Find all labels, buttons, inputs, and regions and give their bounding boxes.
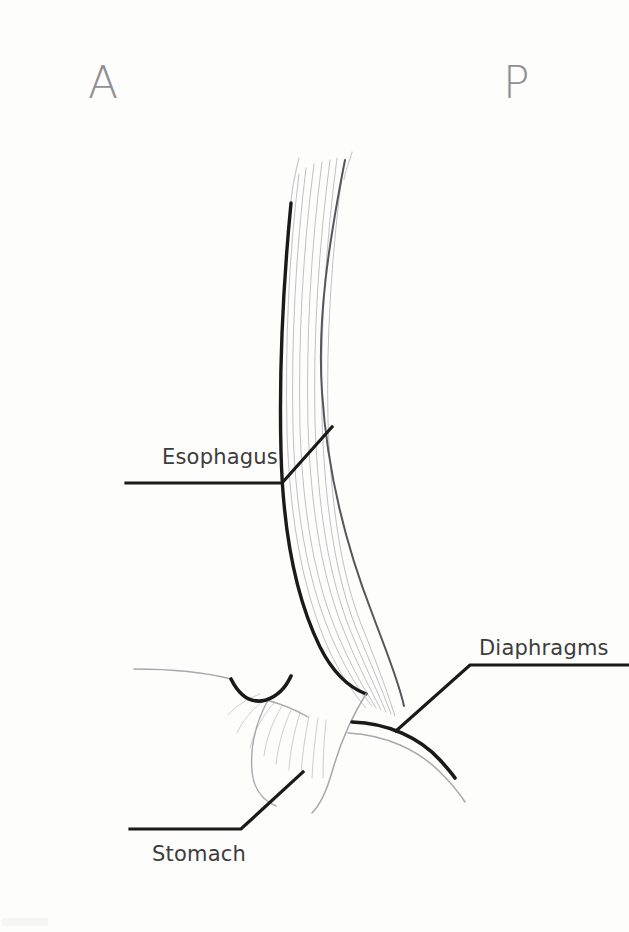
orientation-mark-anterior: A: [88, 57, 119, 108]
stomach-label-text: Stomach: [152, 842, 246, 866]
esophagus-label-text: Esophagus: [162, 445, 278, 469]
anatomy-figure: A P Esophagus Diaphragms Stomach: [0, 0, 629, 932]
diaphragms-label-text: Diaphragms: [479, 636, 609, 660]
paper-background: [0, 0, 629, 932]
orientation-mark-posterior: P: [503, 57, 530, 108]
illustration-canvas: A P Esophagus Diaphragms Stomach: [0, 0, 629, 932]
scan-smudge-artifact: [2, 918, 48, 926]
